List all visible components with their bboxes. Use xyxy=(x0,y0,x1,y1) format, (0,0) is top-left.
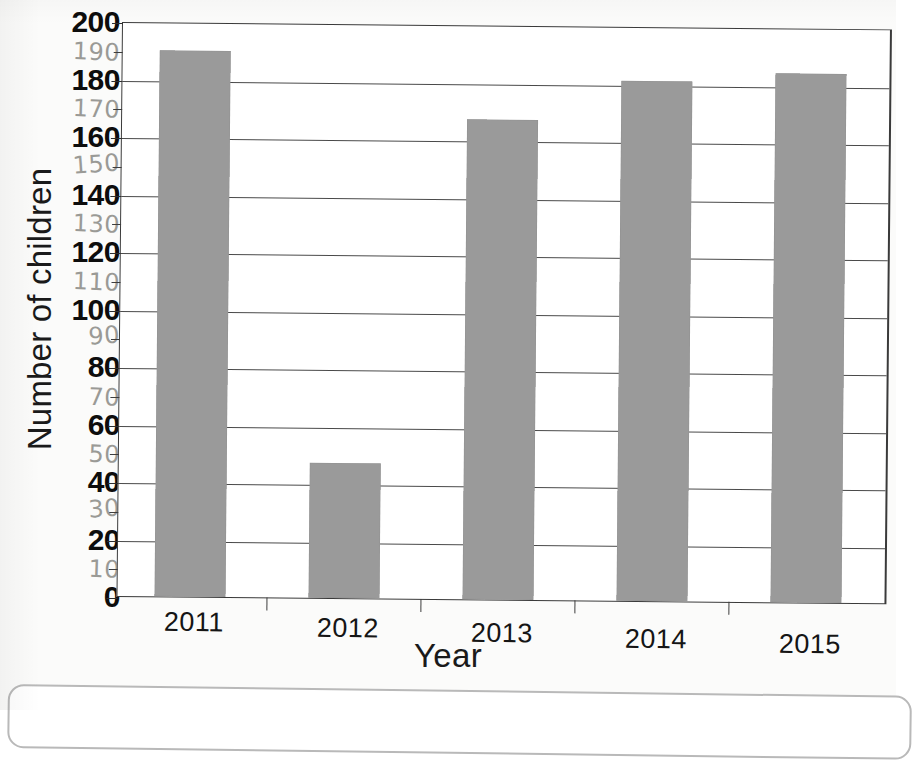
y-label-40: 40 xyxy=(20,467,120,497)
y-label-80: 80 xyxy=(20,352,120,382)
y-label-handwritten-170: 170 xyxy=(20,95,121,122)
y-tick-minor-150 xyxy=(113,167,122,168)
y-label-handwritten-50: 50 xyxy=(20,440,121,467)
y-label-handwritten-30: 30 xyxy=(19,495,120,526)
y-tick-minor-30 xyxy=(109,512,118,513)
y-label-handwritten-90: 90 xyxy=(19,323,120,354)
y-tick-minor-70 xyxy=(110,397,119,398)
y-label-180: 180 xyxy=(20,65,120,95)
y-tick-major-200 xyxy=(112,23,123,24)
y-tick-major-0 xyxy=(106,598,117,599)
y-label-handwritten-70: 70 xyxy=(20,382,121,409)
bar-2014 xyxy=(616,80,692,601)
y-label-handwritten-190: 190 xyxy=(20,37,121,64)
y-label-60: 60 xyxy=(20,410,120,440)
y-label-20: 20 xyxy=(20,525,120,555)
y-tick-major-120 xyxy=(110,253,121,254)
y-label-160: 160 xyxy=(20,122,120,152)
x-label-2011: 2011 xyxy=(144,606,244,638)
page-bottom-card-edge xyxy=(7,684,912,760)
y-tick-major-40 xyxy=(108,483,119,484)
y-label-handwritten-150: 150 xyxy=(19,150,120,181)
y-tick-major-140 xyxy=(110,195,121,196)
y-tick-minor-130 xyxy=(112,224,121,225)
y-tick-major-60 xyxy=(108,425,119,426)
y-label-120: 120 xyxy=(20,237,120,267)
bar-2012 xyxy=(308,463,380,599)
plot-area-wrapper xyxy=(116,22,892,611)
y-tick-major-160 xyxy=(111,138,122,139)
y-label-0: 0 xyxy=(20,582,120,612)
y-tick-major-180 xyxy=(111,80,122,81)
bar-2015 xyxy=(770,73,846,603)
y-tick-minor-50 xyxy=(110,454,119,455)
y-label-200: 200 xyxy=(20,7,120,37)
bar-2013 xyxy=(462,119,538,600)
plot-area xyxy=(116,22,891,604)
y-tick-major-100 xyxy=(109,310,120,311)
y-tick-minor-10 xyxy=(109,569,118,570)
y-tick-minor-90 xyxy=(111,339,120,340)
y-tick-minor-190 xyxy=(114,52,123,53)
y-label-handwritten-10: 10 xyxy=(20,555,121,582)
y-tick-major-20 xyxy=(107,540,118,541)
x-axis-title: Year xyxy=(0,637,896,675)
y-label-handwritten-110: 110 xyxy=(20,267,121,294)
bar-2011 xyxy=(154,50,230,597)
y-label-100: 100 xyxy=(20,295,120,325)
y-label-handwritten-130: 130 xyxy=(20,210,121,237)
y-tick-major-80 xyxy=(109,368,120,369)
y-tick-minor-110 xyxy=(111,282,120,283)
y-label-140: 140 xyxy=(20,180,120,210)
y-tick-minor-170 xyxy=(113,109,122,110)
y-axis-tick-labels: 2001801601401201008060402001901701501301… xyxy=(10,0,120,710)
